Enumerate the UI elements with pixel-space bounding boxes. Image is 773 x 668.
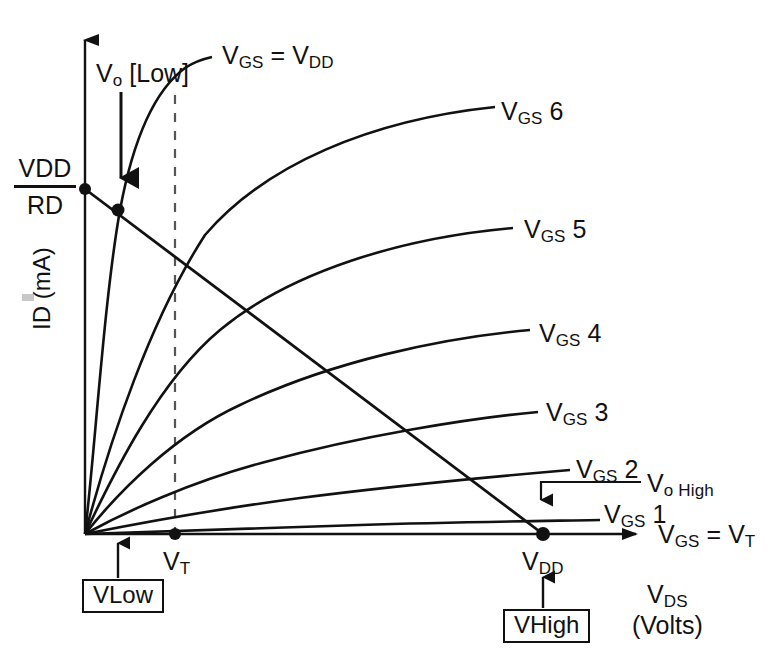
curve-vgs-4 bbox=[85, 330, 530, 534]
curve-label-vgs-3: VGS 3 bbox=[546, 399, 609, 429]
y-axis-label: ID (mA) bbox=[30, 247, 54, 330]
curve-label-vgs-2: VGS 2 bbox=[576, 456, 639, 486]
vo-high-label: Vo High bbox=[647, 470, 714, 500]
marker-vt-on-axis bbox=[169, 528, 181, 540]
y-axis-label-main: ID bbox=[28, 306, 55, 330]
vhigh-box: VHigh bbox=[503, 609, 590, 643]
vo-low-label: Vo [Low] bbox=[96, 60, 189, 90]
x-axis-label: VDS (Volts) bbox=[632, 580, 703, 639]
marker-q-point-high bbox=[536, 527, 550, 541]
vlow-box: VLow bbox=[82, 579, 164, 613]
curve-label-vgs-6: VGS 6 bbox=[501, 98, 564, 128]
marker-q-point-low bbox=[112, 204, 125, 217]
vt-tick-label: VT bbox=[163, 548, 190, 578]
curve-vgs-2 bbox=[85, 470, 570, 534]
y-intercept-denominator: RD bbox=[14, 190, 76, 220]
y-intercept-numerator: VDD bbox=[14, 154, 76, 184]
iv-characteristics-plot bbox=[0, 0, 773, 668]
figure-canvas: VDD RD ID (mA) Vo [Low] VGS = VDD VGS 6 … bbox=[0, 0, 773, 668]
y-intercept-label: VDD RD bbox=[14, 154, 76, 220]
x-axis-label-symbol: VDS bbox=[632, 580, 703, 611]
curve-vgs-3 bbox=[85, 412, 538, 534]
curve-vgs-1 bbox=[85, 520, 600, 534]
marker-vdd-over-rd bbox=[79, 183, 91, 195]
fraction-bar bbox=[14, 185, 76, 188]
x-axis-label-unit: (Volts) bbox=[632, 611, 703, 639]
curve-label-vgs-vdd: VGS = VDD bbox=[222, 42, 334, 72]
y-axis-label-unit: (mA) bbox=[28, 247, 55, 299]
load-line bbox=[85, 189, 543, 534]
x-axis-end-label: VGS = VT bbox=[658, 521, 755, 551]
curve-label-vgs-5: VGS 5 bbox=[524, 216, 587, 246]
curve-vgs-vdd bbox=[85, 57, 212, 534]
vdd-tick-label: VDD bbox=[522, 548, 564, 578]
curve-label-vgs-4: VGS 4 bbox=[539, 320, 602, 350]
